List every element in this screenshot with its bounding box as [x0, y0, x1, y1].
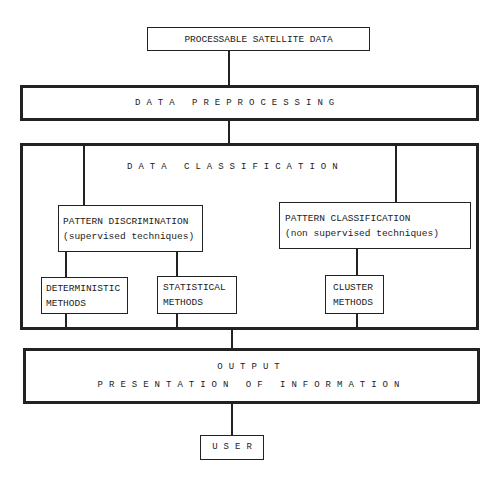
preprocessing-label: DATA PREPROCESSING: [135, 96, 476, 111]
deterministic-line2: METHODS: [46, 296, 127, 311]
statistical-line1: STATISTICAL: [163, 280, 236, 295]
user-label: USER: [212, 440, 258, 455]
output-box: OUTPUT PRESENTATION OF INFORMATION: [23, 348, 480, 404]
pattern-classification-title: PATTERN CLASSIFICATION: [285, 211, 470, 226]
classification-label: DATA CLASSIFICATION: [127, 160, 344, 175]
cluster-methods-box: CLUSTER METHODS: [325, 275, 384, 314]
pattern-discrimination-subtitle: (supervised techniques): [63, 229, 202, 244]
pattern-classification-subtitle: (non supervised techniques): [285, 226, 470, 241]
connector-output-user: [231, 402, 233, 436]
deterministic-line1: DETERMINISTIC: [46, 281, 127, 296]
cluster-line1: CLUSTER: [333, 280, 383, 295]
statistical-line2: METHODS: [163, 295, 236, 310]
deterministic-methods-box: DETERMINISTIC METHODS: [41, 277, 128, 314]
output-line1: OUTPUT: [217, 358, 285, 376]
source-label: PROCESSABLE SATELLITE DATA: [184, 32, 332, 47]
source-box: PROCESSABLE SATELLITE DATA: [147, 27, 370, 51]
pattern-discrimination-title: PATTERN DISCRIMINATION: [63, 214, 202, 229]
statistical-methods-box: STATISTICAL METHODS: [157, 276, 237, 314]
pattern-classification-box: PATTERN CLASSIFICATION (non supervised t…: [279, 202, 471, 249]
connector-source-preprocessing: [228, 50, 230, 85]
connector-classification-output: [231, 328, 233, 349]
user-box: USER: [200, 435, 264, 460]
preprocessing-box: DATA PREPROCESSING: [20, 85, 479, 121]
pattern-discrimination-box: PATTERN DISCRIMINATION (supervised techn…: [58, 205, 203, 252]
connector-preprocessing-classification: [228, 120, 230, 144]
output-line2: PRESENTATION OF INFORMATION: [98, 376, 406, 394]
cluster-line2: METHODS: [333, 295, 383, 310]
